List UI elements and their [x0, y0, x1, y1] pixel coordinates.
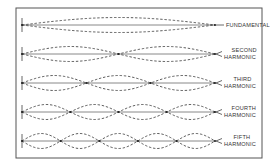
node-point [117, 111, 119, 113]
node-point [69, 111, 71, 113]
label-leader-arrow [216, 52, 222, 57]
mode-label-third: THIRDHARMONIC [224, 76, 256, 89]
node-point [214, 82, 216, 84]
node-point [85, 82, 87, 84]
mode-row-fifth: FIFTHHARMONIC [21, 134, 256, 149]
node-point [214, 53, 216, 55]
node-point [21, 111, 23, 113]
mode-label-line: FIFTH [233, 134, 250, 140]
mode-label-line: THIRD [233, 76, 251, 82]
wave-upper-envelope [22, 18, 215, 26]
mode-row-second: SECONDHARMONIC [21, 47, 257, 62]
mode-row-fourth: FOURTHHARMONIC [21, 105, 256, 120]
mode-label-fundamental: FUNDAMENTAL [226, 22, 270, 28]
node-point [60, 140, 62, 142]
mode-label-fifth: FIFTHHARMONIC [224, 134, 256, 147]
node-point [166, 111, 168, 113]
mode-label-line: HARMONIC [224, 112, 256, 118]
mode-rows: FUNDAMENTALSECONDHARMONICTHIRDHARMONICFO… [21, 18, 270, 149]
node-point [21, 24, 23, 26]
node-point [117, 53, 119, 55]
node-point [175, 140, 177, 142]
label-leader-arrow [216, 110, 222, 115]
mode-label-line: FOURTH [232, 105, 256, 111]
mode-row-fundamental: FUNDAMENTAL [21, 18, 270, 33]
mode-label-line: HARMONIC [224, 83, 256, 89]
wave-lower-envelope [22, 25, 215, 33]
node-point [137, 140, 139, 142]
mode-label-second: SECONDHARMONIC [224, 47, 257, 60]
node-point [21, 53, 23, 55]
node-point [214, 24, 216, 26]
node-point [214, 140, 216, 142]
mode-label-fourth: FOURTHHARMONIC [224, 105, 256, 118]
label-leader-arrow [216, 81, 222, 86]
node-point [21, 140, 23, 142]
label-leader-arrow [216, 139, 222, 144]
harmonics-diagram: FUNDAMENTALSECONDHARMONICTHIRDHARMONICFO… [0, 0, 274, 167]
mode-label-line: SECOND [232, 47, 257, 53]
node-point [214, 111, 216, 113]
node-point [150, 82, 152, 84]
mode-row-third: THIRDHARMONIC [21, 76, 256, 91]
node-point [21, 82, 23, 84]
node-point [98, 140, 100, 142]
mode-label-line: HARMONIC [224, 141, 256, 147]
mode-label-line: HARMONIC [224, 54, 256, 60]
